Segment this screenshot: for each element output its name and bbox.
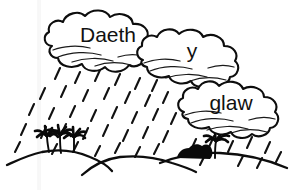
cloud-label-y: y (187, 39, 198, 62)
cloud-label-glaw: glaw (209, 91, 253, 114)
illustration-canvas: Daeth y glaw (0, 0, 293, 190)
cloud-label-daeth: Daeth (80, 23, 136, 46)
scene-svg: Daeth y glaw (0, 0, 293, 190)
